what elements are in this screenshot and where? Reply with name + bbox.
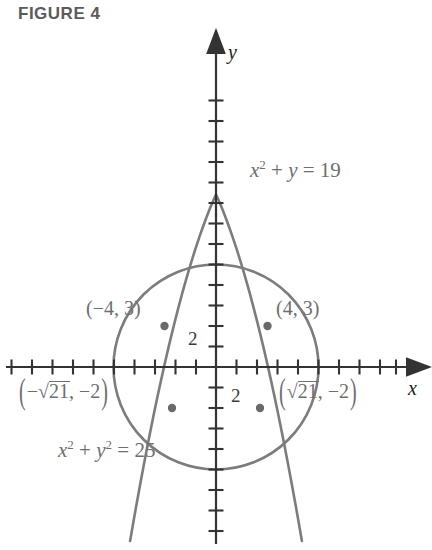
y-tick-label-2: 2: [188, 329, 198, 348]
paren-open-right-lower: (: [278, 374, 287, 409]
parabola-eq-x: x: [250, 158, 259, 182]
circle-eq-equals: =: [117, 438, 129, 462]
comma-neg-two-right: , −2: [318, 380, 349, 402]
point-label-right-lower: (√21, −2): [278, 381, 358, 401]
parabola-eq-exponent: 2: [259, 157, 266, 172]
intersection-dot-right-upper: [263, 322, 271, 330]
circle-eq-plus: +: [79, 438, 91, 462]
paren-open-left-lower: (: [18, 374, 27, 409]
circle-equation-label: x2 + y2 = 25: [58, 440, 155, 461]
paren-close-right-lower: ): [349, 374, 358, 409]
point-label-left-upper: (−4, 3): [86, 298, 141, 318]
x-tick-label-2: 2: [231, 386, 241, 405]
circle-eq-x-exponent: 2: [67, 437, 74, 452]
neg-sign-left-lower: −: [27, 380, 38, 402]
y-axis-label: y: [228, 42, 237, 62]
x-axis-label: x: [408, 378, 417, 398]
intersection-dot-left-upper: [160, 322, 168, 330]
parabola-eq-rhs: 19: [320, 158, 341, 182]
circle-eq-y-exponent: 2: [106, 437, 113, 452]
parabola-eq-y: y: [288, 158, 297, 182]
circle-eq-y: y: [96, 438, 105, 462]
intersection-dot-right-lower: [256, 404, 264, 412]
circle-eq-x: x: [58, 438, 67, 462]
circle-eq-rhs: 25: [134, 438, 155, 462]
paren-close-left-lower: ): [100, 374, 109, 409]
figure-container: FIGURE 4: [0, 0, 432, 550]
sqrt-left-lower: √21: [38, 381, 69, 401]
parabola-eq-equals: =: [303, 158, 315, 182]
coordinate-plot: [0, 0, 432, 550]
comma-neg-two-left: , −2: [69, 380, 100, 402]
point-label-right-upper: (4, 3): [276, 298, 319, 318]
point-label-left-lower: (−√21, −2): [18, 381, 109, 401]
sqrt-right-lower: √21: [287, 381, 318, 401]
parabola-equation-label: x2 + y = 19: [250, 160, 341, 181]
parabola-eq-plus: +: [271, 158, 283, 182]
intersection-dot-left-lower: [168, 404, 176, 412]
